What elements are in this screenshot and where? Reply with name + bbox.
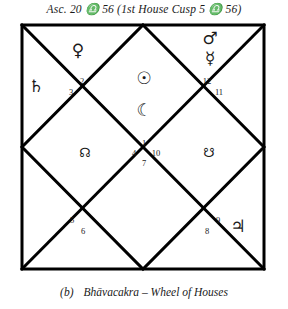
house-number-5: 5 (70, 216, 74, 225)
saturn-glyph: ♄ (28, 78, 43, 95)
house-number-6: 6 (81, 227, 85, 236)
caption-label: (b) (60, 286, 73, 298)
house-number-1: 1 (142, 139, 146, 148)
house-number-3: 3 (69, 88, 73, 97)
house-number-7: 7 (142, 159, 146, 168)
mercury-glyph: ☿ (205, 50, 215, 67)
caption-text: Bhāvacakra – Wheel of Houses (84, 286, 228, 298)
ketu-glyph: ☋ (203, 146, 215, 159)
sun-glyph: ☉ (136, 70, 151, 87)
house-number-11: 11 (215, 88, 223, 97)
house-number-12: 12 (203, 77, 212, 86)
house-number-2: 2 (80, 77, 84, 86)
moon-glyph: ☾ (136, 102, 151, 119)
house-number-4: 4 (132, 149, 136, 158)
mars-glyph: ♂ (202, 30, 217, 47)
house-number-8: 8 (205, 227, 209, 236)
house-number-10: 10 (152, 149, 161, 158)
rahu-glyph: ☊ (79, 146, 91, 159)
jupiter-glyph: ♃ (230, 218, 245, 235)
bhavacakra-chart (0, 0, 288, 309)
house-number-9: 9 (216, 216, 220, 225)
venus-glyph: ♀ (72, 42, 84, 59)
figure-caption: (b)Bhāvacakra – Wheel of Houses (0, 286, 288, 298)
bhavacakra-figure: Asc. 20 ♎ 56 (1st House Cusp 5 ♎ 56) ♄♀♂… (0, 0, 288, 309)
